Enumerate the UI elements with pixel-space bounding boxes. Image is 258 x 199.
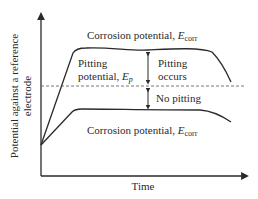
y-axis-label: Potential against a reference xyxy=(8,34,20,158)
pitting-potential-label-line2: potential, Ep xyxy=(78,70,133,84)
x-axis-label: Time xyxy=(132,180,155,192)
pitting-potential-diagram: Potential against a reference electrode … xyxy=(0,0,258,199)
upper-curve-label: Corrosion potential, Ecorr xyxy=(87,29,198,43)
lower-curve-label: Corrosion potential, Ecorr xyxy=(87,124,198,138)
pitting-occurs-label: Pitting xyxy=(158,57,188,69)
y-axis-label-line2: electrode xyxy=(21,76,33,116)
pitting-potential-label: Pitting xyxy=(78,57,108,69)
no-pitting-label: No pitting xyxy=(156,92,201,104)
pitting-occurs-label-line2: occurs xyxy=(158,70,187,82)
